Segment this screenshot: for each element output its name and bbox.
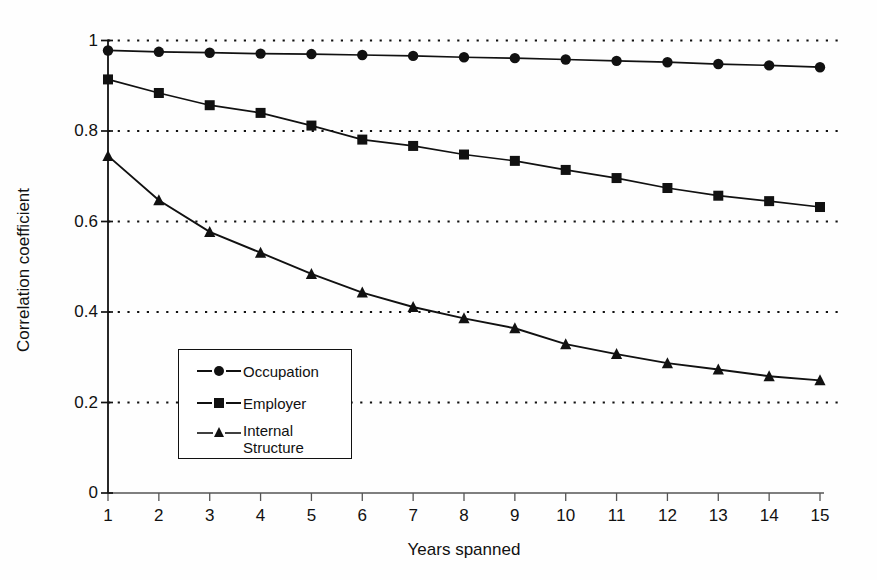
square-data-point (713, 191, 723, 201)
square-data-point (815, 202, 825, 212)
chart-plot-area (0, 0, 877, 580)
square-data-point (306, 121, 316, 131)
square-data-point (764, 196, 774, 206)
square-data-point (561, 165, 571, 175)
circle-data-point (764, 60, 774, 70)
circle-data-point (103, 45, 113, 55)
circle-data-point (255, 48, 265, 58)
square-data-point (205, 100, 215, 110)
circle-data-point (205, 48, 215, 58)
square-data-point (256, 108, 266, 118)
x-tick-label: 1 (103, 506, 112, 526)
square-data-point (103, 74, 113, 84)
x-tick-label: 3 (205, 506, 214, 526)
circle-data-point (306, 49, 316, 59)
x-tick-label: 15 (811, 506, 830, 526)
x-tick-label: 10 (556, 506, 575, 526)
x-tick-label: 5 (307, 506, 316, 526)
circle-data-point (713, 59, 723, 69)
legend-item-employer: Employer (179, 390, 351, 416)
x-axis-title: Years spanned (408, 540, 521, 560)
x-tick-label: 12 (658, 506, 677, 526)
x-tick-label: 4 (256, 506, 265, 526)
square-marker-icon (195, 394, 243, 412)
y-tick-label: 1 (40, 31, 98, 51)
legend-label-employer: Employer (243, 395, 306, 412)
square-data-point (459, 150, 469, 160)
square-data-point (154, 88, 164, 98)
square-data-point (408, 141, 418, 151)
square-data-point (612, 173, 622, 183)
square-data-point (510, 156, 520, 166)
y-tick-label: 0.2 (40, 393, 98, 413)
circle-data-point (510, 53, 520, 63)
circle-data-point (662, 57, 672, 67)
legend-label-occupation: Occupation (243, 363, 319, 380)
x-tick-label: 13 (709, 506, 728, 526)
triangle-data-point (102, 150, 113, 161)
series-line-triangle (108, 156, 820, 380)
legend-label-internal-structure: Internal Structure (243, 422, 304, 456)
series-line-square (108, 79, 820, 207)
y-tick-label: 0.4 (40, 302, 98, 322)
y-tick-label: 0 (40, 483, 98, 503)
x-tick-label: 14 (760, 506, 779, 526)
circle-data-point (459, 52, 469, 62)
triangle-marker-icon (195, 424, 243, 442)
square-data-point (662, 183, 672, 193)
x-tick-label: 8 (459, 506, 468, 526)
data-series-group (102, 45, 825, 385)
square-data-point (357, 135, 367, 145)
x-tick-marks-group (108, 493, 820, 501)
x-tick-label: 6 (358, 506, 367, 526)
y-tick-label: 0.6 (40, 212, 98, 232)
circle-data-point (561, 54, 571, 64)
chart-legend: Occupation Employer Internal Structure (178, 349, 352, 459)
triangle-data-point (306, 268, 317, 279)
x-tick-label: 7 (408, 506, 417, 526)
x-tick-label: 2 (154, 506, 163, 526)
x-tick-label: 9 (510, 506, 519, 526)
circle-marker-icon (195, 362, 243, 380)
x-tick-label: 11 (608, 506, 626, 526)
y-tick-marks-group (101, 41, 113, 494)
circle-data-point (815, 62, 825, 72)
circle-data-point (408, 51, 418, 61)
triangle-data-point (204, 226, 215, 237)
circle-data-point (357, 50, 367, 60)
legend-item-internal-structure: Internal Structure (179, 422, 351, 456)
chart-figure: 00.20.40.60.81 123456789101112131415 Cor… (0, 0, 877, 580)
legend-item-occupation: Occupation (179, 358, 351, 384)
y-axis-title: Correlation coefficient (14, 188, 34, 352)
y-tick-label: 0.8 (40, 121, 98, 141)
triangle-data-point (255, 247, 266, 258)
circle-data-point (154, 47, 164, 57)
circle-data-point (611, 56, 621, 66)
